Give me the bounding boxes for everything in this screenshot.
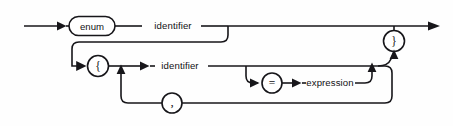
close-brace-label: } [391,35,397,47]
identifier-list-arrow-icon [140,62,150,71]
expression-arrow-icon [292,79,302,88]
identifier-top-label: identifier [154,20,192,31]
identifier-list-label: identifier [161,60,199,71]
rail-comma-loop-left [121,74,162,103]
railroad-diagram-canvas: enum identifier { identifier = [0,0,453,126]
equals-label: = [269,77,276,89]
enum-keyword-label: enum [80,21,104,32]
equals-entry-arrow-icon [250,79,260,88]
expression-label: expression [306,77,353,88]
exit-arrow-icon [428,22,440,31]
comma-label: , [170,94,173,109]
entry-arrow-icon [57,22,67,31]
railroad-diagram: enum identifier { identifier = [0,0,453,126]
expression-merge-arrow-icon [368,63,377,73]
open-brace-label: { [95,60,101,72]
